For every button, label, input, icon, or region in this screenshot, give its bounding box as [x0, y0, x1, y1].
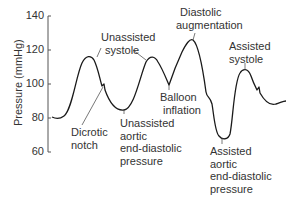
label-line: aortic [120, 130, 182, 143]
label-assisted-aedp: Assisted aortic end-diastolic pressure [210, 145, 272, 195]
label-line: pressure [210, 183, 272, 196]
label-line: inflation [160, 104, 201, 117]
label-unassisted-systole: Unassisted systole [101, 31, 155, 56]
label-line: augmentation [176, 19, 243, 32]
label-line: end-diastolic [210, 170, 272, 183]
y-tick-80: 80 [22, 111, 44, 123]
label-line: Dicrotic [71, 126, 108, 139]
label-balloon-inflation: Balloon inflation [160, 91, 201, 116]
label-line: Assisted [229, 40, 271, 53]
label-assisted-systole: Assisted systole [229, 40, 271, 65]
y-tick-120: 120 [22, 43, 44, 55]
label-line: systole [229, 53, 271, 66]
y-axis [48, 16, 51, 152]
label-line: end-diastolic [120, 142, 182, 155]
label-line: Unassisted [101, 31, 155, 44]
label-diastolic-augmentation: Diastolic augmentation [176, 6, 243, 31]
label-line: Unassisted [120, 117, 182, 130]
label-dicrotic-notch: Dicrotic notch [71, 126, 108, 151]
y-tick-100: 100 [22, 77, 44, 89]
label-line: Balloon [160, 91, 201, 104]
label-line: Assisted [210, 145, 272, 158]
label-line: Diastolic [176, 6, 243, 19]
label-line: aortic [210, 158, 272, 171]
label-line: notch [71, 139, 108, 152]
y-tick-140: 140 [22, 9, 44, 21]
label-line: systole [101, 44, 155, 57]
y-axis-label: Pressure (mmHg) [12, 39, 24, 126]
label-line: pressure [120, 155, 182, 168]
label-unassisted-aedp: Unassisted aortic end-diastolic pressure [120, 117, 182, 167]
y-tick-60: 60 [22, 145, 44, 157]
